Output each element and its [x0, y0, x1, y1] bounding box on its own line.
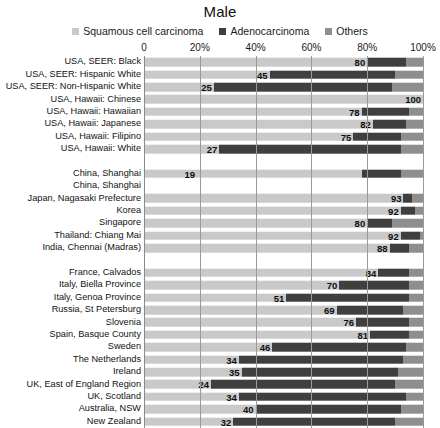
bar-row: USA, SEER: Non-Hispanic White25: [0, 81, 440, 93]
bar-track: [144, 254, 440, 266]
y-axis-category-label: USA, Hawaii: Chinese: [0, 95, 144, 105]
bar-track: 32: [144, 415, 440, 427]
bar-row: China, Shanghai19: [0, 168, 440, 180]
segment-others: [409, 330, 423, 339]
segment-adenocarcinoma: [373, 120, 406, 129]
segment-others: [420, 231, 423, 240]
bar-track: 34: [144, 391, 440, 403]
stacked-bar[interactable]: [144, 145, 440, 154]
bar-value-label: 40: [243, 404, 256, 415]
bar-track: 88: [144, 242, 440, 254]
segment-squamous: [144, 244, 390, 253]
stacked-bar[interactable]: [144, 95, 440, 104]
stacked-bar[interactable]: [144, 392, 440, 401]
segment-adenocarcinoma: [272, 343, 406, 352]
bar-value-label: 76: [343, 317, 356, 328]
bar-value-label: 93: [391, 193, 404, 204]
stacked-bar[interactable]: [144, 330, 440, 339]
bar-value-label: 80: [355, 57, 368, 68]
bar-track: 78: [144, 106, 440, 118]
bar-track: 34: [144, 353, 440, 365]
bar-track: 35: [144, 366, 440, 378]
segment-adenocarcinoma: [403, 194, 411, 203]
y-axis-category-label: Singapore: [0, 218, 144, 228]
legend-item-2[interactable]: Adenocarcinoma: [219, 26, 309, 37]
bar-value-label: 46: [260, 342, 273, 353]
y-axis-category-label: USA, Hawaii: Japanese: [0, 119, 144, 129]
y-axis-category-label: Thailand: Chiang Mai: [0, 231, 144, 241]
stacked-bar[interactable]: [144, 70, 440, 79]
segment-adenocarcinoma: [286, 293, 409, 302]
bar-track: 80: [144, 217, 440, 229]
segment-adenocarcinoma: [367, 219, 392, 228]
bar-track: 25: [144, 81, 440, 93]
segment-squamous: [144, 368, 242, 377]
bar-value-label: 24: [198, 379, 211, 390]
stacked-bar[interactable]: [144, 281, 440, 290]
segment-adenocarcinoma: [378, 269, 409, 278]
bar-value-label: 78: [349, 106, 362, 117]
segment-others: [395, 70, 423, 79]
bar-track: 69: [144, 304, 440, 316]
stacked-bar[interactable]: [144, 219, 440, 228]
segment-others: [392, 219, 423, 228]
stacked-bar[interactable]: [144, 83, 440, 92]
bar-value-label: 92: [388, 205, 401, 216]
segment-squamous: [144, 330, 370, 339]
stacked-bar[interactable]: [144, 132, 440, 141]
segment-adenocarcinoma: [270, 70, 396, 79]
bar-value-label: 34: [226, 391, 239, 402]
stacked-bar[interactable]: [144, 58, 440, 67]
bar-track: 92: [144, 229, 440, 241]
stacked-bar[interactable]: [144, 306, 440, 315]
bar-row: Sweden46: [0, 341, 440, 353]
stacked-bar[interactable]: [144, 355, 440, 364]
bar-value-label: 32: [221, 416, 234, 427]
stacked-bar[interactable]: [144, 368, 440, 377]
legend-swatch-icon: [72, 28, 79, 35]
segment-others: [409, 244, 423, 253]
segment-others: [392, 83, 423, 92]
plot-area: USA, SEER: Black80USA, SEER: Hispanic Wh…: [0, 56, 440, 428]
bar-row: The Netherlands34: [0, 353, 440, 365]
y-axis-category-label: USA, SEER: Hispanic White: [0, 70, 144, 80]
segment-squamous: [144, 207, 401, 216]
bar-track: 75: [144, 130, 440, 142]
bar-value-label: 75: [341, 131, 354, 142]
stacked-bar[interactable]: [144, 107, 440, 116]
legend-swatch-icon: [219, 28, 226, 35]
bar-row: France, Calvados84: [0, 267, 440, 279]
stacked-bar[interactable]: [144, 269, 440, 278]
bar-track: [144, 155, 440, 167]
y-axis-category-label: Ireland: [0, 367, 144, 377]
bar-track: 84: [144, 267, 440, 279]
stacked-bar[interactable]: [144, 380, 440, 389]
x-tick-60pct: 60%: [301, 42, 321, 53]
segment-others: [395, 417, 423, 426]
y-axis-category-label: Sweden: [0, 342, 144, 352]
stacked-bar[interactable]: [144, 405, 440, 414]
bar-track: 27: [144, 143, 440, 155]
bar-row: Italy, Genoa Province51: [0, 291, 440, 303]
y-axis-category-label: Korea: [0, 206, 144, 216]
stacked-bar[interactable]: [144, 293, 440, 302]
stacked-bar[interactable]: [144, 343, 440, 352]
bar-row: Ireland35: [0, 366, 440, 378]
stacked-bar[interactable]: [144, 318, 440, 327]
stacked-bar[interactable]: [144, 244, 440, 253]
x-tick-40pct: 40%: [246, 42, 266, 53]
bar-track: 24: [144, 378, 440, 390]
bar-value-label: 34: [226, 354, 239, 365]
segment-squamous: [144, 169, 362, 178]
legend-item-1[interactable]: Squamous cell carcinoma: [72, 26, 203, 37]
segment-others: [406, 392, 423, 401]
stacked-bar[interactable]: [144, 417, 440, 426]
bar-row: USA, Hawaii: Hawaiian78: [0, 106, 440, 118]
stacked-bar[interactable]: [144, 120, 440, 129]
legend-item-3[interactable]: Others: [325, 26, 368, 37]
bar-row: India, Chennai (Madras)88: [0, 242, 440, 254]
y-axis-category-label: India, Chennai (Madras): [0, 243, 144, 253]
segment-adenocarcinoma: [337, 306, 404, 315]
segment-others: [395, 380, 423, 389]
y-axis-category-label: Spain, Basque County: [0, 330, 144, 340]
